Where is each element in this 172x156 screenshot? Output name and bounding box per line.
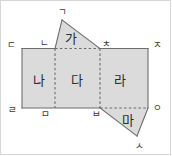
face-label-ra: 라 [114, 74, 126, 87]
face-label-da: 다 [71, 74, 83, 87]
vertex-label-mieum: ㅁ [41, 109, 50, 119]
vertex-label-jieut: ㅈ [153, 40, 162, 50]
vertex-label-nieun: ㄴ [40, 38, 49, 48]
vertex-label-giyeok: ㄱ [58, 7, 67, 17]
face-label-na: 나 [33, 74, 45, 87]
vertex-label-bieup: ㅂ [92, 109, 101, 119]
net-diagram-figure: 가나다라마 ㄱㄴㄷㅊㅈㄹㅁㅂㅇㅅ [0, 0, 172, 156]
vertex-label-chieut: ㅊ [102, 39, 111, 49]
vertex-label-rieul: ㄹ [8, 105, 17, 115]
net-geometry-svg [0, 0, 172, 156]
vertex-label-digeut: ㄷ [7, 40, 16, 50]
vertex-label-siot: ㅅ [135, 141, 144, 151]
face-label-ma: 마 [122, 114, 134, 127]
face-label-ga: 가 [65, 32, 77, 45]
face-ga [55, 20, 100, 49]
vertex-label-ieung: ㅇ [153, 103, 162, 113]
